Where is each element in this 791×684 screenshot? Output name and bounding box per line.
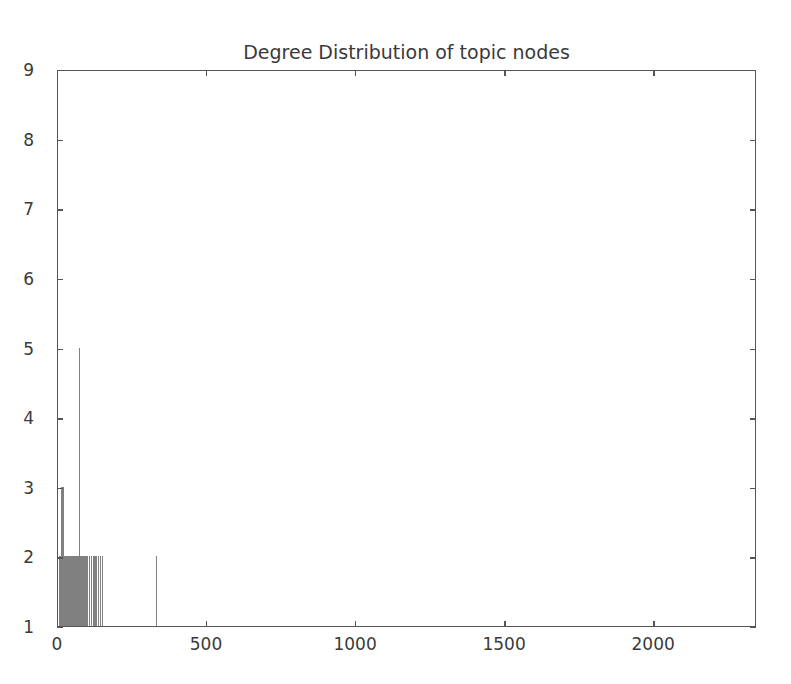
plot-area [57,70,756,627]
y-tick-mark-right [750,349,756,350]
y-tick-label: 6 [0,269,34,289]
y-tick-mark-right [750,279,756,280]
x-tick-label: 0 [52,634,63,654]
y-tick-label: 5 [0,339,34,359]
bar-series [58,71,755,626]
y-tick-mark-right [750,557,756,558]
x-tick-mark-top [57,70,58,76]
y-tick-mark-right [750,488,756,489]
x-tick-mark-top [653,70,654,76]
y-tick-mark-right [750,418,756,419]
y-tick-mark [57,557,63,558]
x-tick-mark-top [355,70,356,76]
x-tick-label: 500 [190,634,222,654]
y-tick-label: 1 [0,617,34,637]
y-tick-label: 7 [0,199,34,219]
x-tick-label: 2000 [632,634,675,654]
y-tick-label: 8 [0,130,34,150]
figure-canvas: Degree Distribution of topic nodes 12345… [0,0,791,684]
y-tick-mark-right [750,140,756,141]
x-tick-mark [355,621,356,627]
x-tick-mark [57,621,58,627]
chart-title: Degree Distribution of topic nodes [57,41,756,63]
y-tick-label: 3 [0,478,34,498]
y-tick-mark [57,627,63,628]
y-tick-mark [57,140,63,141]
x-tick-mark-top [206,70,207,76]
bar [156,556,157,626]
x-tick-label: 1000 [333,634,376,654]
x-tick-mark [206,621,207,627]
x-tick-label: 1500 [482,634,525,654]
y-tick-label: 9 [0,60,34,80]
y-tick-mark-right [750,70,756,71]
y-tick-mark [57,209,63,210]
bar [102,556,103,626]
y-tick-mark [57,279,63,280]
y-tick-label: 4 [0,408,34,428]
x-tick-mark [653,621,654,627]
y-tick-mark-right [750,627,756,628]
y-tick-mark [57,418,63,419]
y-tick-mark [57,349,63,350]
y-tick-mark-right [750,209,756,210]
x-tick-mark-top [504,70,505,76]
y-tick-label: 2 [0,547,34,567]
y-tick-mark [57,488,63,489]
x-tick-mark [504,621,505,627]
